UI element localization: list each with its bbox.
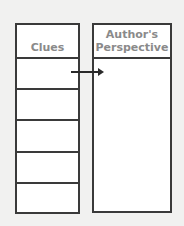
arrow-right-icon (0, 0, 184, 226)
